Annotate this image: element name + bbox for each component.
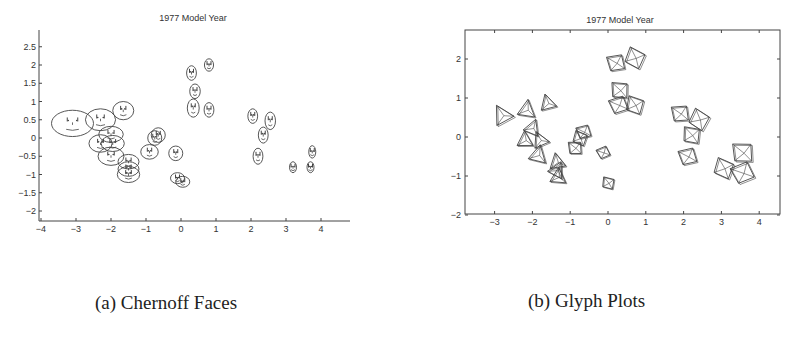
x-tick-label: −1 xyxy=(565,217,575,227)
x-tick-label: −2 xyxy=(527,217,537,227)
y-tick-label: 2 xyxy=(456,54,461,64)
pyramid-glyph xyxy=(517,99,536,118)
figure: 1977 Model Year2.521.510.50−0.5−1−1.5−2−… xyxy=(0,0,788,337)
chernoff-face xyxy=(151,128,165,143)
x-tick-label: −1 xyxy=(141,224,151,234)
chernoff-face xyxy=(187,99,199,117)
chernoff-face xyxy=(248,109,258,124)
x-tick-label: 2 xyxy=(248,224,253,234)
x-tick-label: 0 xyxy=(178,224,183,234)
chart-title: 1977 Model Year xyxy=(159,13,227,23)
x-tick-label: 0 xyxy=(605,217,610,227)
y-tick-label: −1.5 xyxy=(18,188,36,198)
y-tick-label: −2 xyxy=(26,206,36,216)
y-tick-label: 1.5 xyxy=(23,78,36,88)
pyramid-glyph xyxy=(671,106,689,122)
pyramid-glyph xyxy=(607,55,626,72)
chernoff-face xyxy=(169,146,183,161)
chernoff-face xyxy=(85,109,115,131)
x-tick-label: 3 xyxy=(283,224,288,234)
glyph-plot: 1977 Model Year210−1−2−3−2−101234 xyxy=(451,15,780,227)
y-tick-label: −2 xyxy=(451,210,461,220)
x-tick-label: 4 xyxy=(318,224,323,234)
chernoff-face xyxy=(187,66,197,81)
chernoff-faces-chart: 1977 Model Year2.521.510.50−0.5−1−1.5−2−… xyxy=(0,0,788,337)
y-tick-label: 2 xyxy=(31,60,36,70)
pyramid-glyph xyxy=(714,158,735,180)
pyramid-glyph xyxy=(603,177,615,190)
chernoff-face xyxy=(309,146,316,158)
y-tick-label: 2.5 xyxy=(23,42,36,52)
caption-chernoff-faces: (a) Chernoff Faces xyxy=(95,292,237,314)
pyramid-glyph xyxy=(678,148,698,166)
chernoff-face xyxy=(101,135,124,151)
chernoff-face xyxy=(190,84,201,99)
y-tick-label: 0 xyxy=(456,132,461,142)
pyramid-glyph xyxy=(523,119,539,137)
chernoff-face xyxy=(98,147,124,165)
chernoff-face xyxy=(307,162,314,173)
y-tick-label: −1 xyxy=(26,170,36,180)
chernoff-face xyxy=(141,145,159,160)
x-tick-label: 1 xyxy=(213,224,218,234)
x-tick-label: −2 xyxy=(106,224,116,234)
x-tick-label: 4 xyxy=(757,217,762,227)
chernoff-face xyxy=(204,59,213,71)
x-tick-label: −3 xyxy=(489,217,499,227)
pyramid-glyph xyxy=(626,96,644,116)
x-tick-label: 2 xyxy=(681,217,686,227)
y-tick-label: 1 xyxy=(31,97,36,107)
x-tick-label: 1 xyxy=(643,217,648,227)
x-tick-label: −3 xyxy=(71,224,81,234)
pyramid-glyph xyxy=(496,105,515,126)
pyramid-glyph xyxy=(612,83,628,99)
y-tick-label: 1 xyxy=(456,93,461,103)
pyramid-glyph xyxy=(535,132,551,149)
pyramid-glyph xyxy=(568,142,582,154)
y-tick-label: 0.5 xyxy=(23,115,36,125)
caption-glyph-plots: (b) Glyph Plots xyxy=(528,290,645,312)
pyramid-glyph xyxy=(541,94,558,111)
x-tick-label: −4 xyxy=(36,224,46,234)
y-tick-label: −0.5 xyxy=(18,151,36,161)
chernoff-face xyxy=(290,162,297,173)
x-tick-label: 3 xyxy=(719,217,724,227)
chernoff-face xyxy=(113,102,134,120)
chernoff-face xyxy=(89,135,112,153)
pyramid-glyph xyxy=(733,144,754,162)
pyramid-glyph xyxy=(625,47,646,70)
y-tick-label: −1 xyxy=(451,171,461,181)
chernoff-face xyxy=(253,148,263,164)
chernoff-face xyxy=(204,103,214,118)
y-tick-label: 0 xyxy=(31,133,36,143)
pyramid-glyph xyxy=(596,146,611,159)
pyramid-glyph xyxy=(684,127,701,145)
chart-title: 1977 Model Year xyxy=(586,15,654,25)
chernoff-face xyxy=(258,127,268,143)
chernoff-face xyxy=(265,112,276,130)
pyramid-glyph xyxy=(528,145,546,164)
chernoff-face xyxy=(148,131,162,146)
chernoff-plot: 1977 Model Year2.521.510.50−0.5−1−1.5−2−… xyxy=(18,13,350,234)
